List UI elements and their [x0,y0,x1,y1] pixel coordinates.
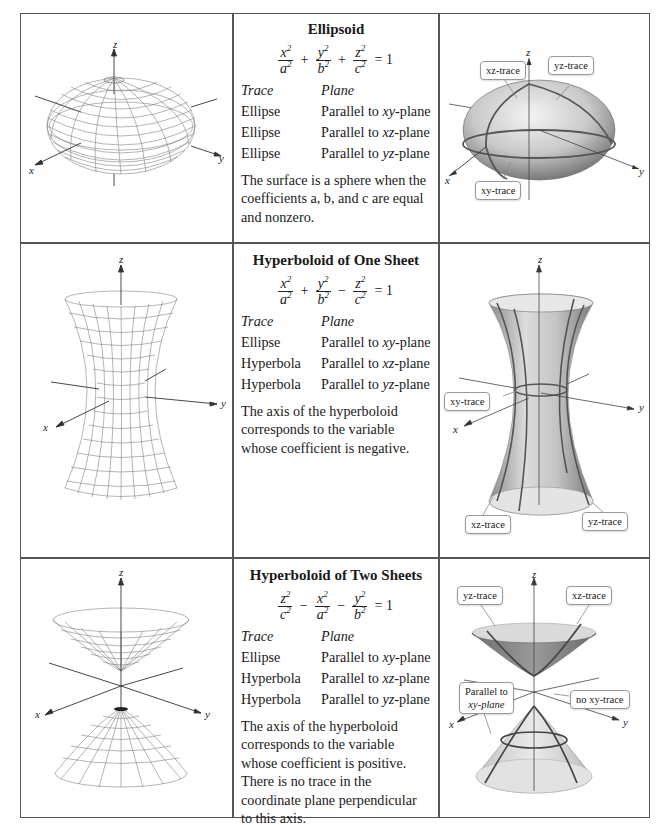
surface-description: The surface is a sphere when the coeffic… [241,171,431,227]
hyperboloid-one-sheet-wireframe-figure: z x y [21,243,232,557]
hyperboloid-one-sheet-shaded-figure: z x y xy-trace xz-trace yz-trace [439,243,650,557]
trace-row: EllipseParallel to yz-plane [241,143,431,164]
hyperboloid-two-sheets-shaded-figure: z x y yz-trace xz-trace Parallel to xy-p… [439,558,650,817]
surface-description: The axis of the hyperboloid corresponds … [241,717,431,825]
z-axis-label: z [119,253,123,265]
z-axis-label: z [526,46,530,58]
surface-equation: x2a2 + y2b2 − z2c2 = 1 [241,273,431,311]
x-axis-label: x [449,718,454,730]
z-axis-label: z [532,568,536,580]
hyperboloid-two-sheets-wireframe-figure: z x y [21,558,232,817]
surface-description: The axis of the hyperboloid corresponds … [241,402,431,458]
trace-row: EllipseParallel to xy-plane [241,101,431,122]
ellipsoid-wireframe-figure: z x y [21,14,232,242]
xy-trace-callout: xy-trace [444,392,490,411]
x-axis-label: x [35,708,40,720]
ellipsoid-shaded-figure: z x y xz-trace yz-trace xy-trace [439,14,650,242]
yz-trace-callout: yz-trace [457,586,503,605]
x-axis-label: x [29,164,34,176]
trace-header-row: TracePlane [241,626,431,647]
y-axis-label: y [205,708,210,720]
surface-equation: z2c2 − x2a2 − y2b2 = 1 [241,588,431,626]
xy-trace-callout: xy-trace [475,181,521,200]
ellipsoid-wireframe-icon [21,14,232,242]
no-xy-trace-callout: no xy-trace [570,690,630,709]
parallel-to-xy-plane-callout: Parallel to xy-plane [459,682,514,714]
hyperboloid-two-sheets-info: Hyperboloid of Two Sheets z2c2 − x2a2 − … [233,558,438,817]
y-axis-label: y [221,397,226,409]
surface-equation: x2a2 + y2b2 + z2c2 = 1 [241,42,431,80]
hyperboloid-one-sheet-info: Hyperboloid of One Sheet x2a2 + y2b2 − z… [233,243,438,557]
trace-header-row: TracePlane [241,80,431,101]
z-axis-label: z [119,566,123,578]
surface-title: Hyperboloid of Two Sheets [241,566,431,585]
hyperboloid-two-sheets-wireframe-icon [21,558,232,817]
trace-row: HyperbolaParallel to xz-plane [241,353,431,374]
quadric-surfaces-table: z x y Ellipsoid x2a2 + y2b2 + z2c2 = 1 T… [20,13,650,818]
y-axis-label: y [639,165,644,177]
yz-trace-callout: yz-trace [582,512,628,531]
xz-trace-callout: xz-trace [465,515,511,534]
hyperboloid-one-sheet-wireframe-icon [21,243,232,557]
x-axis-label: x [445,174,450,186]
y-axis-label: y [219,152,224,164]
trace-row: EllipseParallel to xy-plane [241,647,431,668]
z-axis-label: z [538,253,542,265]
yz-trace-callout: yz-trace [548,56,594,75]
ellipsoid-shaded-icon [439,14,650,242]
ellipsoid-info: Ellipsoid x2a2 + y2b2 + z2c2 = 1 TracePl… [233,14,438,242]
trace-row: HyperbolaParallel to yz-plane [241,689,431,710]
trace-row: HyperbolaParallel to yz-plane [241,374,431,395]
z-axis-label: z [113,38,117,50]
surface-title: Ellipsoid [241,20,431,39]
surface-title: Hyperboloid of One Sheet [241,251,431,270]
xz-trace-callout: xz-trace [566,586,612,605]
trace-row: EllipseParallel to xy-plane [241,332,431,353]
x-axis-label: x [43,421,48,433]
trace-row: HyperbolaParallel to xz-plane [241,668,431,689]
xz-trace-callout: xz-trace [480,61,526,80]
x-axis-label: x [453,423,458,435]
y-axis-label: y [623,716,628,728]
y-axis-label: y [639,401,644,413]
trace-row: EllipseParallel to xz-plane [241,122,431,143]
trace-header-row: TracePlane [241,311,431,332]
